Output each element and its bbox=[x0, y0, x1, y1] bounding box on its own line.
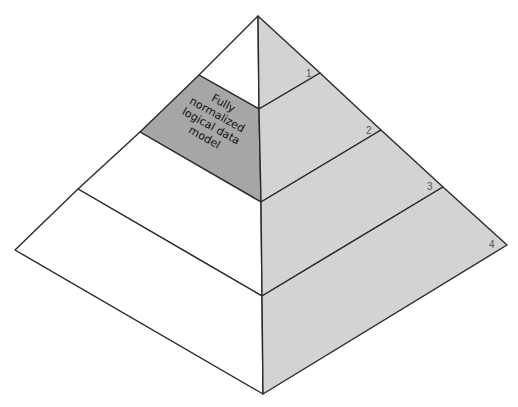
tier-3-label: 3 bbox=[427, 181, 433, 192]
tier-2-label: 2 bbox=[366, 125, 372, 136]
pyramid-diagram: 1 2 3 4 Fully normalized logical data mo… bbox=[0, 0, 518, 407]
tier-4-label: 4 bbox=[489, 239, 495, 250]
tier-1-label: 1 bbox=[306, 68, 312, 79]
